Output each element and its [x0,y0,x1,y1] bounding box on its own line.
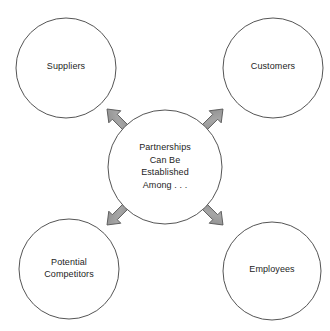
diagram-canvas [0,0,330,331]
partnership-diagram: Suppliers Customers Potential Competitor… [0,0,330,331]
node-circle-center [108,110,222,224]
node-circle-potential-competitors [19,219,119,319]
node-circle-employees [223,222,321,320]
node-circle-suppliers [16,18,116,118]
node-circle-customers [223,18,323,118]
